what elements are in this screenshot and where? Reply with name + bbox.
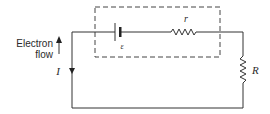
external-resistance-label: R xyxy=(251,64,259,76)
electron-flow-label-line1: Electron xyxy=(16,38,53,49)
internal-resistor-icon xyxy=(171,29,198,35)
battery-icon xyxy=(115,23,122,41)
current-label: I xyxy=(55,65,61,77)
electron-flow-label-line2: flow xyxy=(35,49,54,60)
emf-label: ε xyxy=(120,42,124,51)
load-resistor-icon xyxy=(240,56,246,85)
circuit-wires xyxy=(72,32,243,108)
current-arrow-icon xyxy=(69,68,75,74)
circuit-diagram: Electron flow I ε r R xyxy=(0,0,270,114)
internal-resistance-label: r xyxy=(184,13,188,24)
electron-flow-arrow-icon xyxy=(56,36,62,54)
